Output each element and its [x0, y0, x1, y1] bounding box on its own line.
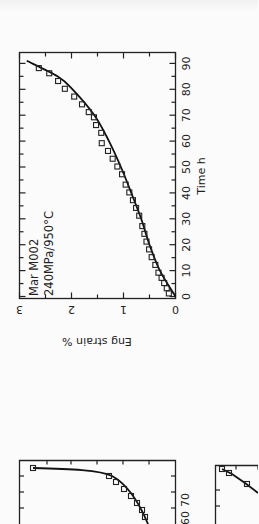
time-tick-label: 10 [180, 264, 193, 278]
strain-tick-label: 1 [120, 303, 127, 316]
square-marker [106, 148, 111, 153]
time-tick-label: 50 [180, 160, 193, 174]
figure-canvas: 0102030405060708090 0123 Time h Eng stra… [0, 0, 258, 524]
strain-tick-label: 3 [16, 303, 23, 316]
partial-plot-right [216, 466, 259, 524]
strain-tick-label: 0 [172, 303, 179, 316]
time-tick-label: 30 [180, 212, 193, 226]
square-marker [166, 291, 171, 296]
square-marker [99, 141, 104, 146]
time-tick-label: 60 [180, 134, 193, 148]
x-axis-label: Time h [195, 157, 208, 195]
time-tick-label: 80 [180, 82, 193, 96]
annotation-conditions: 240MPa/950°C [42, 211, 56, 296]
data-markers [36, 66, 171, 296]
fit-curve [222, 469, 258, 493]
time-tick-label: 40 [180, 186, 193, 200]
plot-frame [216, 466, 259, 524]
time-tick-label: 0 [180, 293, 193, 300]
square-marker [72, 94, 77, 99]
main-plot: 0102030405060708090 0123 Time h Eng stra… [16, 53, 208, 349]
square-marker [94, 123, 99, 128]
time-tick-label: 70 [180, 108, 193, 122]
tick-label: 60 [179, 511, 192, 524]
square-marker [62, 86, 67, 91]
strain-tick-labels: 0123 [16, 303, 179, 316]
partial-plot-left: 70 60 [20, 461, 193, 524]
plot-frame [20, 461, 176, 524]
y-axis-label: Eng strain % [62, 335, 132, 348]
square-marker [56, 79, 61, 84]
annotation-material: Mar M002 [27, 239, 41, 296]
square-marker [110, 156, 115, 161]
strain-tick-label: 2 [68, 303, 75, 316]
time-tick-labels: 0102030405060708090 [180, 56, 193, 300]
tick-label: 70 [179, 493, 192, 507]
fit-curve [33, 468, 148, 524]
time-tick-label: 20 [180, 238, 193, 252]
time-tick-label: 90 [180, 56, 193, 70]
